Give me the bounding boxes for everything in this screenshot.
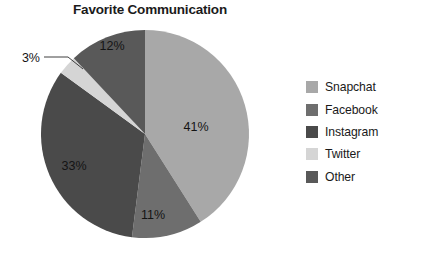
legend-item-other[interactable]: Other <box>306 166 398 188</box>
slice-value-facebook: 11% <box>141 208 165 222</box>
legend-label-instagram: Instagram <box>325 125 378 139</box>
legend-label-twitter: Twitter <box>325 147 360 161</box>
legend-swatch-instagram <box>306 126 318 138</box>
legend-label-snapchat: Snapchat <box>325 80 376 94</box>
legend-label-other: Other <box>325 170 355 184</box>
chart-legend: Snapchat Facebook Instagram Twitter Othe… <box>306 76 398 188</box>
slice-value-instagram: 33% <box>61 159 86 173</box>
slice-value-twitter: 3% <box>22 51 40 65</box>
legend-swatch-facebook <box>306 104 318 116</box>
legend-item-snapchat[interactable]: Snapchat <box>306 76 398 98</box>
slice-value-other: 12% <box>99 39 124 53</box>
pie-svg: 41% 11% 33% 12% 3% <box>0 0 300 265</box>
slice-value-snapchat: 41% <box>183 120 208 134</box>
pie-chart-figure: Favorite Communication 41% 11% 33% 12% 3… <box>0 0 423 265</box>
legend-swatch-snapchat <box>306 81 318 93</box>
legend-item-instagram[interactable]: Instagram <box>306 121 398 143</box>
legend-item-twitter[interactable]: Twitter <box>306 143 398 165</box>
legend-item-facebook[interactable]: Facebook <box>306 98 398 120</box>
legend-swatch-twitter <box>306 148 318 160</box>
legend-swatch-other <box>306 171 318 183</box>
legend-label-facebook: Facebook <box>325 103 378 117</box>
pie-plot-area: 41% 11% 33% 12% 3% <box>0 0 300 265</box>
